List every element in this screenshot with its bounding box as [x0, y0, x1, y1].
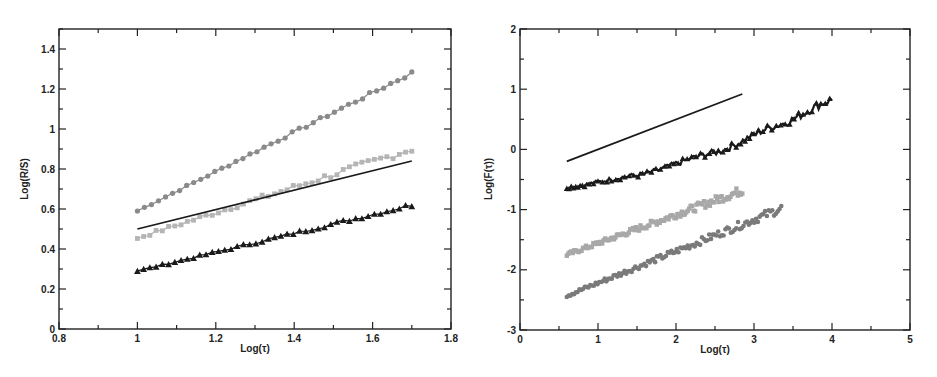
data-point [254, 149, 259, 154]
data-point [709, 237, 714, 242]
data-point [388, 81, 393, 86]
data-point [259, 239, 266, 245]
x-tick-label: 1.4 [287, 333, 301, 344]
data-point [409, 149, 414, 154]
data-point [715, 147, 721, 152]
data-point [402, 75, 407, 80]
left-y-axis-label: Log(R/S) [19, 158, 30, 200]
data-point [409, 69, 414, 74]
data-point [653, 260, 658, 265]
y-tick-label: -2 [507, 264, 516, 275]
data-point [332, 110, 337, 115]
data-point [135, 236, 140, 241]
data-point [179, 222, 184, 227]
data-point [197, 214, 202, 219]
right-y-axis-label: Log(F(τ)) [483, 158, 494, 200]
data-point [160, 228, 165, 233]
data-point [261, 145, 266, 150]
right-x-axis-label: Log(τ) [700, 344, 729, 355]
data-point [372, 157, 377, 162]
data-point [809, 109, 815, 114]
data-point [346, 102, 351, 107]
data-point [770, 208, 775, 213]
left-x-axis-label: Log(τ) [240, 343, 269, 354]
data-point [396, 205, 403, 211]
data-point [765, 214, 770, 219]
y-tick-label: 1 [510, 84, 516, 95]
y-tick-label: -3 [507, 325, 516, 336]
left-series [134, 69, 415, 274]
data-point [311, 120, 316, 125]
x-tick-label: 0.8 [52, 333, 66, 344]
data-point [787, 121, 793, 126]
data-point [353, 162, 358, 167]
data-point [318, 115, 323, 120]
data-point [190, 255, 197, 261]
data-point [736, 220, 741, 225]
data-point [756, 220, 761, 225]
y-tick-label: 0.2 [41, 284, 55, 295]
data-point [717, 200, 721, 204]
data-point [177, 188, 182, 193]
data-point [690, 204, 694, 208]
data-point [205, 173, 210, 178]
data-point [335, 172, 340, 177]
y-tick-label: 0 [49, 324, 55, 335]
y-tick-label: 0.6 [41, 204, 55, 215]
data-point [381, 86, 386, 91]
data-point [328, 175, 333, 180]
data-point [198, 177, 203, 182]
data-point [291, 183, 296, 188]
x-tick-label: 1.2 [209, 333, 223, 344]
data-point [755, 127, 761, 132]
data-point [676, 250, 681, 255]
data-point [403, 150, 408, 155]
data-point [166, 224, 171, 229]
series-black-triangles [134, 202, 415, 274]
data-point [172, 224, 177, 229]
data-point [796, 110, 802, 115]
data-point [325, 114, 330, 119]
series-connector [567, 99, 832, 189]
data-point [734, 186, 738, 190]
left-chart-rs: 0.811.21.41.61.800.20.40.60.811.21.4 Log… [19, 29, 458, 354]
fit-line [567, 94, 743, 161]
data-point [378, 156, 383, 161]
x-tick-label: 1 [135, 333, 141, 344]
data-point [644, 264, 649, 269]
x-tick-label: 1.6 [366, 333, 380, 344]
data-point [297, 183, 302, 188]
data-point [339, 106, 344, 111]
data-point [191, 218, 196, 223]
x-tick-label: 3 [751, 334, 757, 345]
data-point [360, 96, 365, 101]
data-point [693, 209, 697, 213]
series-light-gray-squares [565, 186, 745, 258]
data-point [397, 152, 402, 157]
right-series [564, 94, 833, 299]
data-point [347, 164, 352, 169]
data-point [321, 224, 328, 230]
data-point [366, 158, 371, 163]
y-tick-label: 2 [510, 24, 516, 35]
y-tick-label: 0.8 [41, 164, 55, 175]
data-point [360, 160, 365, 165]
data-point [341, 167, 346, 172]
x-tick-label: 1 [595, 334, 601, 345]
data-point [163, 194, 168, 199]
data-point [135, 208, 140, 213]
data-point [149, 202, 154, 207]
data-point [340, 217, 347, 223]
data-point [322, 173, 327, 178]
figure: 0.811.21.41.61.800.20.40.60.811.21.4 Log… [0, 0, 937, 377]
data-point [664, 254, 669, 259]
data-point [384, 154, 389, 159]
data-point [647, 223, 651, 227]
x-tick-label: 2 [673, 334, 679, 345]
data-point [191, 180, 196, 185]
data-point [233, 159, 238, 164]
data-point [184, 183, 189, 188]
data-point [290, 129, 295, 134]
series-reference-line [567, 94, 743, 161]
data-point [297, 126, 302, 131]
